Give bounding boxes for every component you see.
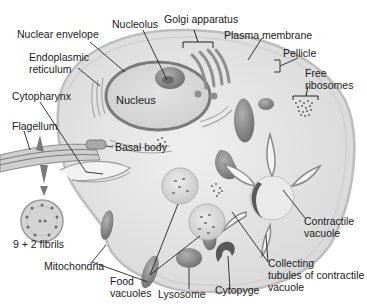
label-lysosome: Lysosome — [158, 288, 205, 300]
vesicle — [258, 98, 274, 110]
label-endoplasmic-reticulum-line2: reticulum — [29, 63, 72, 75]
lysosome — [176, 248, 202, 268]
label-pellicle: Pellicle — [283, 47, 316, 59]
label-collecting-tubules-line2: tubules of contractile — [268, 269, 364, 281]
label-mitochondria: Mitochondria — [44, 260, 104, 272]
label-flagellum: Flagellum — [12, 120, 58, 132]
label-golgi-apparatus: Golgi apparatus — [164, 13, 238, 25]
label-collecting-tubules-line3: vacuole — [268, 281, 304, 293]
basal-body — [86, 140, 106, 149]
label-contractile-vacuole-line1: Contractile — [304, 215, 354, 227]
label-cytopyge: Cytopyge — [215, 284, 259, 296]
label-endoplasmic-reticulum-line1: Endoplasmic — [29, 51, 89, 63]
label-food-vacuoles-line1: Food — [110, 275, 134, 287]
contractile-vacuole — [250, 176, 294, 220]
label-plasma-membrane: Plasma membrane — [224, 29, 312, 41]
fibrils-cross-section — [21, 200, 63, 242]
label-nucleolus: Nucleolus — [112, 18, 158, 30]
label-cytopharynx: Cytopharynx — [12, 90, 71, 102]
label-collecting-tubules-line1: Collecting — [268, 257, 314, 269]
label-food-vacuoles-line2: vacuoles — [110, 287, 151, 299]
label-basal-body: Basal body — [115, 141, 167, 153]
label-9-2-fibrils: 9 + 2 fibrils — [13, 238, 64, 250]
label-free-ribosomes-line1: Free — [305, 67, 327, 79]
label-contractile-vacuole-line2: vacuole — [304, 227, 340, 239]
label-nucleus: Nucleus — [116, 94, 156, 106]
label-free-ribosomes-line2: ribosomes — [305, 79, 353, 91]
label-nuclear-envelope: Nuclear envelope — [17, 28, 99, 40]
